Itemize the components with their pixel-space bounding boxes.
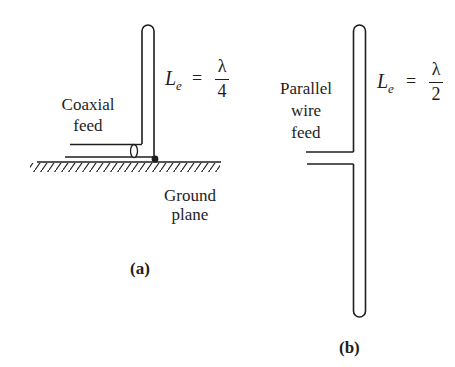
equation-b: L e = λ 2 [377, 60, 452, 110]
eq-b-numerator: λ [429, 59, 443, 80]
monopole-antenna [142, 25, 154, 160]
caption-a: (a) [130, 260, 150, 277]
eq-a-fraction-bar [215, 79, 229, 80]
feed-label-line-2: feed [52, 117, 124, 134]
parallel-wire-feed-label: Parallel wire feed [270, 80, 342, 141]
folded-dipole-antenna [354, 25, 366, 317]
feed-label-line-1: Parallel [270, 80, 342, 97]
caption-b: (b) [339, 339, 360, 356]
eq-b-fraction-bar [429, 82, 443, 83]
eq-b-lhs: L [377, 70, 388, 93]
eq-b-equals: = [406, 71, 416, 92]
eq-a-lhs: L [165, 67, 176, 90]
ground-plane [30, 162, 221, 172]
parallel-wire-feed [306, 152, 354, 164]
eq-a-denominator: 4 [215, 81, 229, 102]
feed-label-line-1: Coaxial [52, 96, 124, 113]
eq-a-numerator: λ [215, 56, 229, 77]
eq-b-subscript: e [388, 81, 394, 97]
feed-label-line-3: feed [270, 124, 342, 141]
panel-b [306, 25, 366, 317]
eq-a-subscript: e [176, 78, 182, 94]
coaxial-feed-label: Coaxial feed [52, 96, 124, 134]
eq-a-equals: = [192, 68, 202, 89]
ground-plane-label: Ground plane [155, 187, 225, 223]
equation-a: L e = λ 4 [165, 58, 235, 108]
feed-label-line-2: wire [270, 102, 342, 119]
coaxial-feed [65, 145, 155, 158]
eq-b-denominator: 2 [429, 84, 443, 105]
ground-label-line-2: plane [155, 206, 225, 223]
ground-connection-dot [152, 156, 159, 163]
ground-label-line-1: Ground [155, 187, 225, 204]
